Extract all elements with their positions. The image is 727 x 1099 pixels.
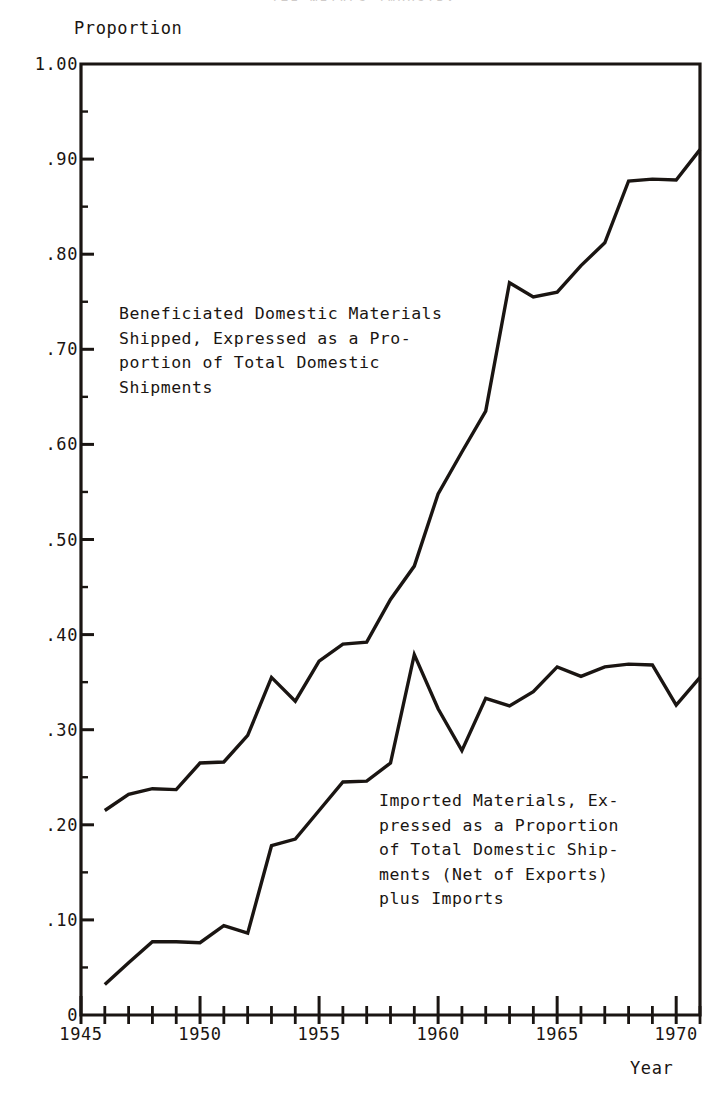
y-axis-tick-label: .60 bbox=[4, 434, 78, 454]
cut-off-page-title: THE METALS INDUSTRY bbox=[0, 0, 727, 1]
y-axis-caption: Proportion bbox=[74, 18, 182, 38]
y-axis-tick-label: .20 bbox=[4, 815, 78, 835]
x-axis-tick-label: 1970 bbox=[655, 1024, 698, 1044]
x-axis-caption: Year bbox=[630, 1058, 673, 1078]
y-axis-tick-label: .80 bbox=[4, 244, 78, 264]
y-axis-tick-label: .30 bbox=[4, 720, 78, 740]
y-axis-tick-label: .90 bbox=[4, 149, 78, 169]
y-axis-tick-label: 1.00 bbox=[4, 54, 78, 74]
x-axis-tick-label: 1945 bbox=[59, 1024, 102, 1044]
chart-figure: THE METALS INDUSTRY Proportion Year 1.00… bbox=[0, 0, 727, 1099]
x-axis-tick-label: 1950 bbox=[178, 1024, 221, 1044]
annotation-upper-series: Beneficiated Domestic Materials Shipped,… bbox=[119, 302, 442, 400]
y-axis-tick-label: .70 bbox=[4, 339, 78, 359]
y-axis-tick-label: .10 bbox=[4, 910, 78, 930]
plot-area bbox=[0, 0, 727, 1099]
x-axis-tick-label: 1955 bbox=[297, 1024, 340, 1044]
annotation-lower-series: Imported Materials, Ex- pressed as a Pro… bbox=[379, 789, 619, 912]
x-axis-tick-label: 1960 bbox=[416, 1024, 459, 1044]
y-axis-tick-label: 0 bbox=[4, 1005, 78, 1025]
y-axis-tick-label: .40 bbox=[4, 625, 78, 645]
x-axis-tick-label: 1965 bbox=[535, 1024, 578, 1044]
y-axis-tick-label: .50 bbox=[4, 530, 78, 550]
y-axis-tick-labels: 1.00.90.80.70.60.50.40.30.20.100 bbox=[0, 0, 78, 1099]
